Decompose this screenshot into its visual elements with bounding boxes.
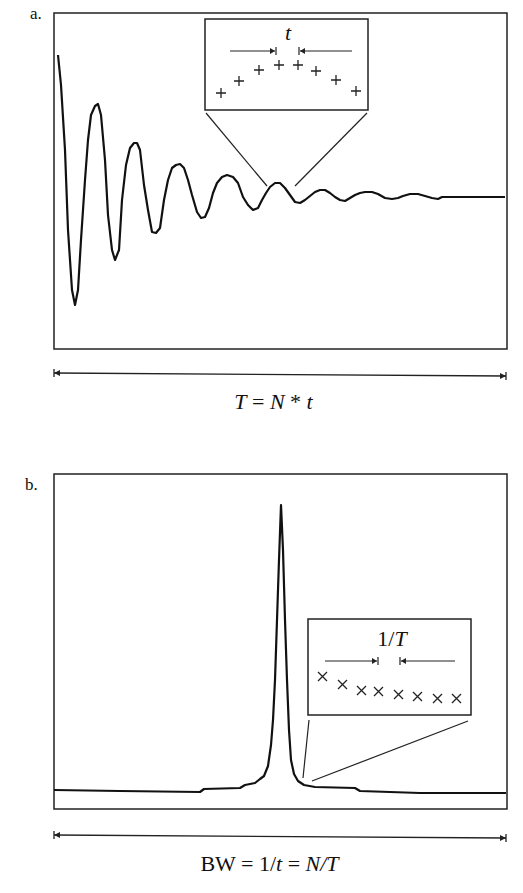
eq-one-over: 1/ — [259, 851, 276, 876]
eq-equals: = — [288, 851, 300, 876]
eq-multiply: * — [290, 389, 301, 414]
panel-a-zoom-line-right — [295, 113, 367, 186]
panel-a-equation: T = N * t — [12, 389, 523, 415]
eq-equals: = — [252, 389, 264, 414]
panel-a-period-arrow — [54, 373, 506, 376]
arrowhead-right-icon — [500, 835, 506, 841]
panel-b-zoom-line-left — [303, 720, 309, 778]
panel-a-zoom-line-left — [206, 113, 267, 186]
panel-a-inset-label: t — [278, 20, 298, 46]
arrowhead-left-icon — [54, 832, 60, 838]
eq-var-N: N — [270, 389, 285, 414]
eq-n-over-T: N/T — [306, 851, 339, 876]
panel-b-bandwidth-arrow — [54, 835, 506, 838]
figure-canvas — [0, 0, 523, 893]
panel-b-zoom-line-right — [312, 721, 468, 781]
eq-var-T: T — [234, 389, 246, 414]
eq-var-t: t — [276, 851, 282, 876]
eq-equals: = — [241, 851, 253, 876]
eq-bw: BW — [200, 851, 235, 876]
eq-var-t: t — [307, 389, 313, 414]
arrowhead-right-icon — [500, 373, 506, 379]
panel-b-inset-label-T: T — [394, 626, 406, 651]
panel-b-inset-label: 1/T — [362, 626, 422, 652]
panel-b-inset-label-num: 1/ — [377, 626, 394, 651]
panel-b-equation: BW = 1/t = N/T — [8, 851, 523, 877]
arrowhead-left-icon — [54, 370, 60, 376]
